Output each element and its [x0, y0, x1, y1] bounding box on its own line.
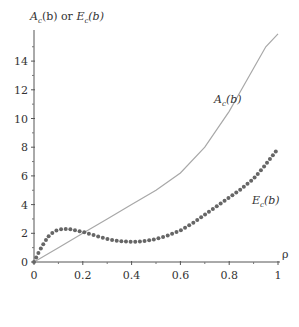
x-tick-label: 0.8 — [220, 269, 238, 282]
annotation-e-label: Ec(b) — [251, 194, 280, 209]
chart-root: 0246810121400.20.40.60.81 Ac(b) or Ec(b)… — [0, 0, 299, 327]
y-tick-label: 2 — [21, 227, 28, 240]
y-tick-label: 0 — [21, 256, 28, 269]
chart-svg: 0246810121400.20.40.60.81 Ac(b) or Ec(b)… — [0, 0, 299, 327]
x-axis-label: ρ — [282, 248, 288, 261]
y-tick-label: 8 — [21, 141, 28, 154]
x-tick-label: 0.2 — [74, 269, 92, 282]
annotation-a-label: Ac(b) — [213, 93, 242, 108]
y-tick-label: 10 — [14, 113, 28, 126]
series-e-dots — [32, 149, 278, 264]
x-tick-label: 0.4 — [123, 269, 141, 282]
y-axis-label: Ac(b) or Ec(b) — [29, 10, 104, 25]
y-tick-label: 14 — [14, 55, 28, 68]
y-tick-label: 6 — [21, 170, 28, 183]
x-tick-label: 1 — [275, 269, 282, 282]
y-tick-label: 12 — [14, 84, 28, 97]
axes: 0246810121400.20.40.60.81 — [14, 30, 282, 282]
y-tick-label: 4 — [21, 199, 28, 212]
x-tick-label: 0.6 — [172, 269, 190, 282]
x-tick-label: 0 — [31, 269, 38, 282]
